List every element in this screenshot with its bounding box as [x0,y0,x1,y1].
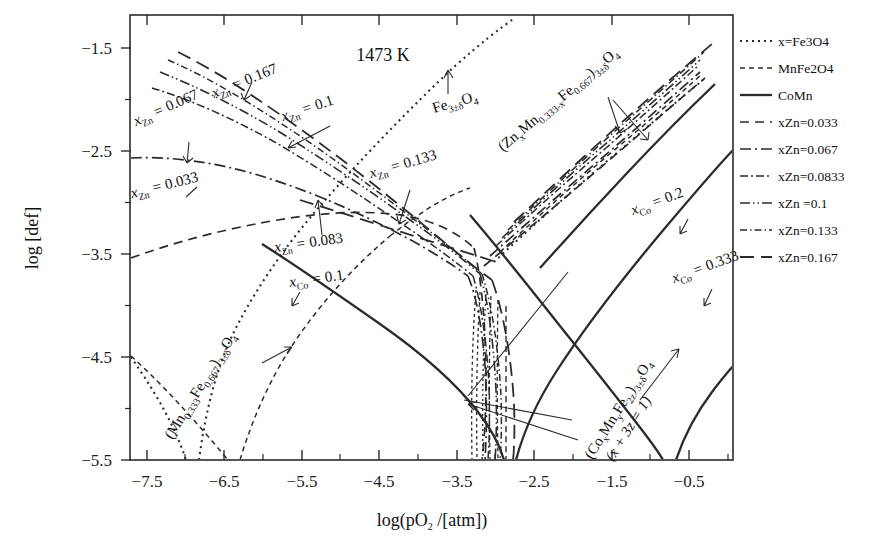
legend-item-label: xZn =0.1 [778,196,828,211]
legend-item-label: xZn=0.167 [778,250,838,265]
phase-diagram-svg: −1.5 −2.5 −3.5 −4.5 −5.5 −7.5 −6.5 −5.5 … [0,0,885,555]
plot-title-temperature: 1473 K [356,45,410,65]
x-tick-label: −4.5 [364,472,395,491]
x-tick-label: −1.5 [597,472,628,491]
x-axis-label: log(pO2 /[atm]) [377,510,487,532]
legend-item-label: xZn=0.033 [778,115,838,130]
y-tick-label: −1.5 [81,39,112,58]
legend-item-label: xZn=0.0833 [778,169,845,184]
x-tick-label: −5.5 [287,472,318,491]
x-tick-label: −0.5 [674,472,705,491]
legend-item-label: x=Fe3O4 [778,34,829,49]
y-tick-label: −2.5 [81,142,112,161]
y-tick-label: −4.5 [81,348,112,367]
y-axis-label: log [def] [22,207,42,269]
x-tick-label: −3.5 [442,472,473,491]
legend-item-label: xZn=0.067 [778,142,838,157]
legend-item-label: MnFe2O4 [778,61,834,76]
chart-figure: −1.5 −2.5 −3.5 −4.5 −5.5 −7.5 −6.5 −5.5 … [0,0,885,555]
y-tick-label: −3.5 [81,245,112,264]
y-tick-label: −5.5 [81,451,112,470]
x-tick-label: −6.5 [209,472,240,491]
legend-item-label: xZn=0.133 [778,223,838,238]
x-tick-label: −7.5 [132,472,163,491]
x-tick-label: −2.5 [519,472,550,491]
legend-item-label: CoMn [778,88,813,103]
